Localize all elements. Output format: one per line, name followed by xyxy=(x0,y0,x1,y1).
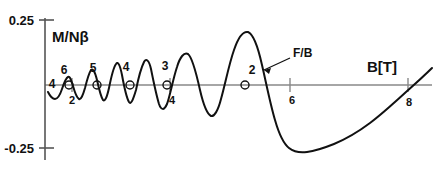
x-tick-label-4: 4 xyxy=(169,94,176,106)
x-tick-label-2: 2 xyxy=(69,94,75,106)
plot-canvas: 0.25 -0.25 M/Nβ B[T] 2 4 6 8 6 5 4 4 3 2… xyxy=(0,0,434,169)
y-tick-label-positive: 0.25 xyxy=(9,13,34,28)
landau-index-label-4-lower: 4 xyxy=(49,77,56,91)
y-tick-label-negative: -0.25 xyxy=(4,141,34,156)
landau-index-label-4-upper: 4 xyxy=(123,60,130,74)
magnetization-curve xyxy=(48,32,432,152)
fb-annotation-label: F/B xyxy=(293,46,313,60)
fb-arrow-line xyxy=(264,58,290,70)
x-tick-label-8: 8 xyxy=(406,96,412,108)
landau-index-label-5: 5 xyxy=(90,61,97,75)
dhva-magnetization-figure: 0.25 -0.25 M/Nβ B[T] 2 4 6 8 6 5 4 4 3 2… xyxy=(0,0,434,169)
landau-index-label-3: 3 xyxy=(162,59,169,73)
y-axis-title: M/Nβ xyxy=(52,28,89,45)
landau-index-label-2: 2 xyxy=(249,63,256,77)
x-tick-label-6: 6 xyxy=(289,94,295,106)
landau-index-label-6: 6 xyxy=(61,63,68,77)
x-axis-title: B[T] xyxy=(367,58,397,75)
